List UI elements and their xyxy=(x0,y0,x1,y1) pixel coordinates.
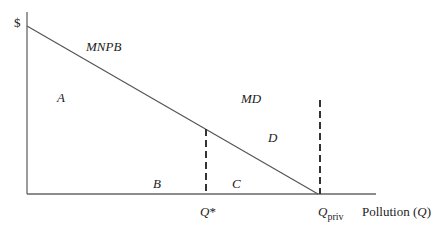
q-star-label: Q* xyxy=(200,205,216,218)
q-priv-subscript: priv xyxy=(327,211,343,222)
q-star-suffix: * xyxy=(209,204,216,219)
q-priv-label: Qpriv xyxy=(318,205,344,222)
x-axis-label: Pollution (Q) xyxy=(362,205,431,218)
region-d-label: D xyxy=(268,131,277,144)
region-b-label: B xyxy=(153,177,161,190)
diagram-canvas xyxy=(0,0,443,231)
md-label: MD xyxy=(241,92,261,105)
q-priv-var: Q xyxy=(318,204,327,219)
mnpb-label: MNPB xyxy=(86,40,121,53)
x-axis-label-text: Pollution ( xyxy=(362,204,417,219)
region-a-label: A xyxy=(57,91,65,104)
region-c-label: C xyxy=(232,177,241,190)
y-axis-label: $ xyxy=(14,16,21,29)
q-star-var: Q xyxy=(200,204,209,219)
x-axis-label-close: ) xyxy=(427,204,431,219)
mnpb-curve xyxy=(27,26,318,194)
x-axis-label-var: Q xyxy=(417,204,426,219)
